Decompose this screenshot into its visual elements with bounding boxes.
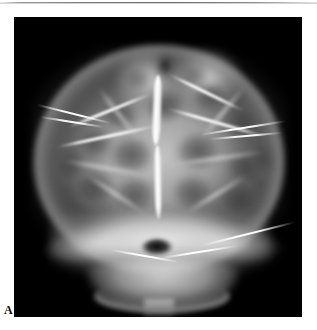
page-top-rule-shadow (0, 3, 317, 4)
panel-label: A (4, 303, 13, 317)
lacuna-vertex-left (122, 65, 156, 93)
foramen-magnum (140, 237, 174, 257)
skull-radiograph-image (14, 17, 302, 317)
cervical-spine (144, 299, 174, 317)
radiograph-panel (14, 17, 302, 317)
